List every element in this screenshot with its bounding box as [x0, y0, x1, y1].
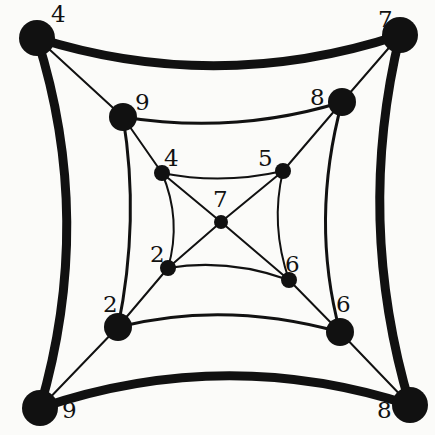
node-label-outer-br: 8 [377, 397, 392, 423]
graph-svg: 4798982645267 [0, 0, 435, 435]
node-label-inner-br: 6 [285, 251, 300, 277]
edge-outer-br-outer-bl [40, 376, 410, 408]
node-inner-tr [275, 163, 291, 179]
node-label-outer-tr: 7 [378, 6, 393, 32]
edge-outer-tr-outer-br [380, 35, 410, 405]
node-label-mid-tr: 8 [310, 84, 325, 110]
node-label-outer-tl: 4 [51, 1, 66, 27]
node-label-inner-bl: 2 [150, 241, 165, 267]
node-mid-tl [109, 103, 137, 131]
edge-outer-bl-outer-tl [37, 38, 67, 408]
edge-mid-bl-mid-tl [118, 117, 130, 327]
node-center [214, 215, 228, 229]
node-mid-tr [328, 88, 356, 116]
node-label-inner-tr: 5 [258, 145, 273, 171]
node-label-mid-bl: 2 [103, 291, 118, 317]
edge-inner-br-inner-bl [168, 265, 289, 280]
node-label-mid-br: 6 [336, 291, 351, 317]
node-label-center: 7 [213, 186, 228, 212]
edge-inner-tl-inner-tr [162, 171, 283, 179]
edge-mid-br-mid-bl [118, 315, 340, 332]
node-mid-br [326, 318, 354, 346]
node-outer-bl [22, 390, 58, 426]
edge-inner-bl-center [168, 222, 221, 268]
graph-diagram: 4798982645267 [0, 0, 435, 435]
node-outer-br [392, 387, 428, 423]
edge-outer-tl-outer-tr [37, 35, 400, 66]
node-label-outer-bl: 9 [62, 397, 77, 423]
node-label-inner-tl: 4 [164, 145, 179, 171]
node-outer-tl [19, 20, 55, 56]
node-label-mid-tl: 9 [135, 89, 150, 115]
node-mid-bl [104, 313, 132, 341]
